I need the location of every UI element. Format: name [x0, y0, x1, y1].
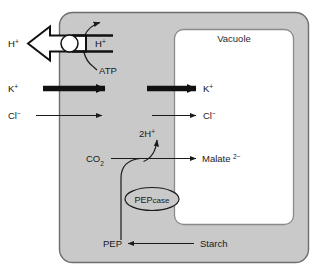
h-outside-charge: + [15, 38, 19, 45]
h-inside-charge: + [102, 38, 106, 45]
co2-subscript: 2 [100, 160, 104, 167]
starch-label: Starch [200, 238, 227, 249]
two-proton-charge: + [151, 128, 155, 135]
k-outside-label: K+ [8, 83, 18, 95]
pepcase-suffix: case [153, 196, 170, 205]
cl-outside-charge: − [17, 110, 21, 117]
pep-label: PEP [103, 238, 122, 249]
cl-outside-label: Cl− [8, 110, 21, 122]
diagram-canvas: Vacuole H+ [0, 0, 317, 275]
vacuole-label: Vacuole [217, 33, 251, 44]
proton-atpase-circle [61, 35, 78, 52]
cam-cell-diagram: Vacuole H+ [0, 0, 317, 275]
k-outside-charge: + [14, 83, 18, 90]
h-outside-label: H+ [8, 38, 19, 50]
vacuole-boundary [175, 30, 294, 225]
atp-label: ATP [99, 65, 117, 76]
malate-charge: 2− [233, 153, 241, 160]
pepcase-label: PEPcase [135, 195, 170, 205]
k-inside-charge: + [209, 83, 213, 90]
cl-inside-charge: − [212, 110, 216, 117]
